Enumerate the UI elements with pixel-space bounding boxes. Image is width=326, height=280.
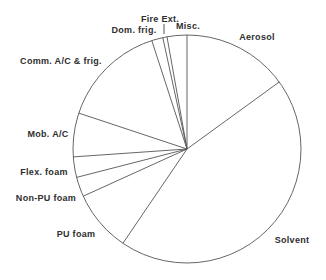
slice-boundary-line-7 [152, 41, 187, 149]
slice-boundary-line-1 [187, 82, 279, 149]
slice-boundary-line-9 [167, 37, 187, 149]
pie-chart-svg [0, 0, 326, 280]
slice-boundary-line-6 [79, 113, 187, 149]
slice-boundary-line-8 [163, 38, 187, 149]
pie-chart-figure: AerosolSolventPU foamNon-PU foamFlex. fo… [0, 0, 326, 280]
